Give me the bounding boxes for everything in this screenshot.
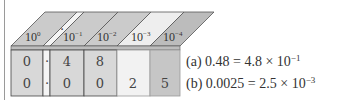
decimal-point-top: · — [58, 22, 66, 37]
equation-label: (b) — [186, 76, 202, 91]
decimal-point-r1: · — [43, 54, 51, 69]
header-10-m4: 10−4 — [163, 30, 182, 45]
cell-r1-c1: 4 — [52, 54, 82, 69]
header-10-m2: 10−2 — [97, 30, 116, 45]
decimal-point-r2: · — [43, 76, 51, 91]
equation-exponent: −3 — [306, 75, 316, 85]
equation-a: (a) 0.48 = 4.8 × 10−1 — [186, 53, 300, 70]
equation-exponent: −1 — [291, 53, 301, 63]
equation-lhs: 0.0025 — [206, 76, 245, 91]
cell-r1-c2: 8 — [85, 54, 115, 69]
cell-r2-c0: 0 — [12, 76, 42, 91]
front-top-band — [11, 46, 180, 50]
header-10-0: 100 — [25, 30, 41, 45]
header-10-m3: 10−3 — [131, 30, 150, 45]
cell-r2-c3: 2 — [118, 76, 148, 91]
equation-mantissa: 4.8 — [244, 54, 262, 69]
equation-lhs: 0.48 — [205, 54, 230, 69]
equation-b: (b) 0.0025 = 2.5 × 10−3 — [186, 75, 315, 92]
cell-r2-c4: 5 — [150, 76, 180, 91]
equation-mantissa: 2.5 — [259, 76, 277, 91]
cell-r2-c2: 0 — [85, 76, 115, 91]
equation-label: (a) — [186, 54, 202, 69]
cell-r2-c1: 0 — [52, 76, 82, 91]
cell-r1-c0: 0 — [12, 54, 42, 69]
